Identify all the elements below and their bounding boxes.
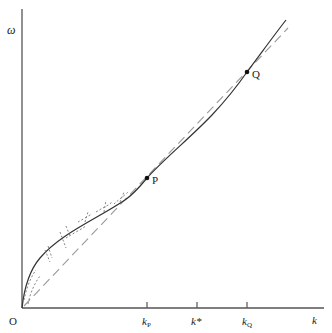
point-p: [145, 176, 150, 181]
svg-text:kP: kP: [142, 315, 151, 329]
solid-curve: [22, 20, 286, 308]
point-q-label: Q: [252, 68, 260, 80]
point-q: [245, 70, 250, 75]
tick-label-kstar: k*: [191, 315, 202, 327]
tick-label-kq: kQ: [242, 315, 252, 329]
y-axis-label: ω: [7, 23, 15, 37]
fluctuation-marks: [24, 192, 128, 304]
svg-text:kQ: kQ: [242, 315, 252, 329]
diagram: ω O k P Q kP k* kQ: [0, 0, 332, 333]
x-axis-label: k: [312, 314, 318, 326]
svg-text:k*: k*: [191, 315, 202, 327]
point-p-label: P: [152, 174, 158, 186]
tick-label-kp: kP: [142, 315, 151, 329]
origin-label: O: [9, 315, 17, 327]
